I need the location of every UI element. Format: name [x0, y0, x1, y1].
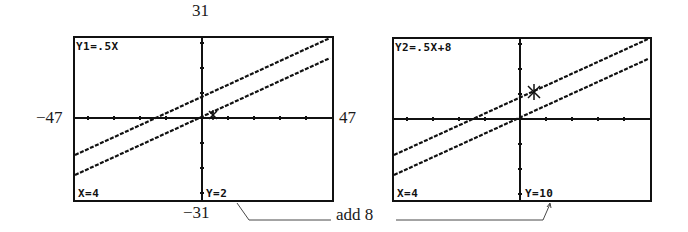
connector-right-leader: [396, 204, 550, 220]
connector-left-leader: [237, 203, 331, 220]
left-trace-cursor-icon: [209, 110, 217, 120]
add-8-connector: [237, 203, 551, 220]
left-plot: [75, 38, 332, 200]
right-plot: [394, 39, 650, 200]
graph-overlay: [0, 0, 688, 232]
